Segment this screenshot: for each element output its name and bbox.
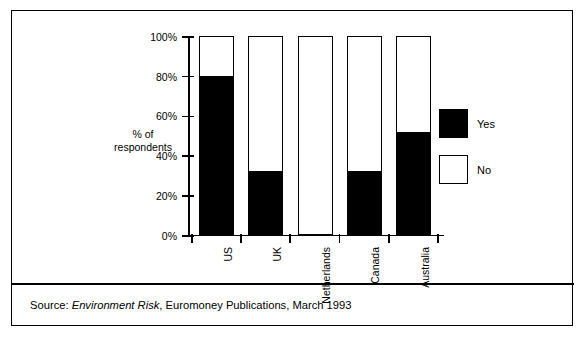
x-axis-label-australia: Australia [419, 247, 431, 288]
bar-canada [347, 36, 382, 235]
x-tick [289, 234, 291, 243]
bar-netherlands [298, 36, 333, 235]
figure-frame: % of respondents 0%20%40%60%80%100% USUK… [11, 10, 573, 326]
bar-segment-no [200, 37, 233, 76]
legend: YesNo [439, 109, 495, 201]
y-tick-label: 100% [150, 31, 177, 43]
bar-segment-yes [397, 132, 430, 234]
bar-uk [248, 36, 283, 235]
source-divider [12, 283, 574, 285]
legend-item-no: No [439, 155, 495, 184]
y-tick-label: 40% [156, 150, 177, 162]
bar-segment-no [348, 37, 381, 171]
source-caption: Source: Environment Risk, Euromoney Publ… [30, 299, 352, 311]
y-axis-line [188, 36, 190, 236]
source-publication: Environment Risk [72, 299, 160, 311]
x-tick [388, 234, 390, 243]
bar-segment-no [299, 37, 332, 234]
y-tick-label: 60% [156, 110, 177, 122]
y-tick: 80% [182, 76, 194, 78]
bar-segment-no [249, 37, 282, 171]
figure-container: % of respondents 0%20%40%60%80%100% USUK… [0, 0, 585, 338]
x-tick [437, 234, 439, 243]
bar-segment-yes [348, 171, 381, 234]
x-axis-label-us: US [222, 247, 234, 262]
x-axis-label-canada: Canada [369, 247, 381, 284]
x-axis-label-uk: UK [271, 247, 283, 262]
bar-segment-yes [249, 171, 282, 234]
legend-label-no: No [477, 164, 491, 176]
bar-us [199, 36, 234, 235]
x-tick [339, 234, 341, 243]
legend-item-yes: Yes [439, 109, 495, 138]
bar-australia [396, 36, 431, 235]
y-tick: 40% [182, 155, 194, 157]
x-axis-label-netherlands: Netherlands [320, 247, 332, 304]
bar-segment-no [397, 37, 430, 132]
source-prefix: Source: [30, 299, 72, 311]
chart-area: % of respondents 0%20%40%60%80%100% USUK… [12, 11, 574, 283]
source-suffix: , Euromoney Publications, March 1993 [159, 299, 351, 311]
legend-swatch-yes [439, 109, 468, 138]
plot-area [199, 36, 431, 235]
y-tick-label: 20% [156, 190, 177, 202]
x-tick [240, 234, 242, 243]
y-tick: 20% [182, 195, 194, 197]
y-tick: 60% [182, 116, 194, 118]
y-tick: 100% [182, 36, 194, 38]
y-axis-title-line1: % of [100, 128, 186, 141]
y-tick-label: 0% [162, 230, 177, 242]
x-tick [191, 234, 193, 243]
bar-segment-yes [200, 76, 233, 234]
legend-label-yes: Yes [477, 118, 495, 130]
legend-swatch-no [439, 155, 468, 184]
bar-group [199, 36, 431, 235]
y-tick-label: 80% [156, 71, 177, 83]
